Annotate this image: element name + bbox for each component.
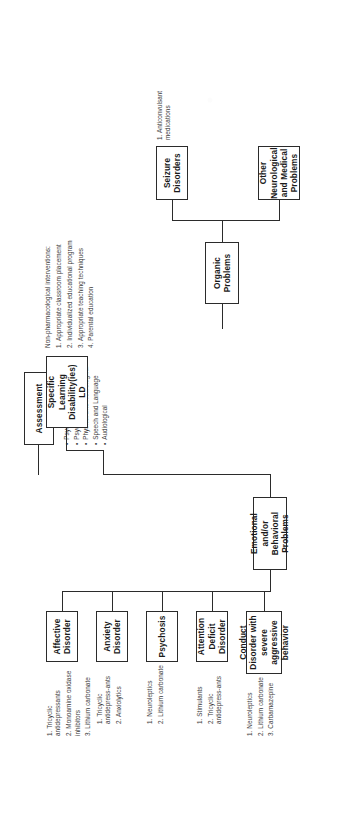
list-attention-deficit-disorder: 1. Stimulants 2. Tricyclic antidepress-a… <box>196 664 226 724</box>
list-item: 3. Lithium carbonate <box>84 664 92 736</box>
list-item: 2. Lithium carbonate <box>157 664 165 724</box>
node-affective-disorder-label: Affective Disorder <box>52 615 73 658</box>
node-psychosis[interactable]: Psychosis <box>146 611 178 662</box>
connector-other-neuro <box>279 199 280 221</box>
list-affective-disorder: 1. Tricyclic antidepressants 2. Monoamin… <box>46 664 95 736</box>
list-item: 3. Carbamazepine <box>267 676 275 736</box>
node-specific-learning-disability[interactable]: Specific Learning Disability(ies) LD <box>46 356 88 428</box>
node-assessment-label: Assessment <box>34 384 44 434</box>
node-organic-problems-box[interactable]: Organic Problems <box>205 242 239 304</box>
list-item: 4. Parental education <box>87 220 95 348</box>
list-item: 1. Neuroleptics <box>246 676 254 736</box>
connector-learning-stem <box>66 427 67 451</box>
list-learning-interventions: Non-pharmacological interventions: 1. Ap… <box>44 220 98 348</box>
assessment-bullet: Audiological <box>100 305 110 445</box>
connector-to-learning <box>103 450 104 475</box>
list-item: 2. Individualized educational program <box>66 220 74 348</box>
list-item: 2. Lithium carbonate <box>257 676 265 736</box>
list-item: 1. Tricyclic antidepress-ants <box>96 664 113 724</box>
list-conduct-disorder: 1. Neuroleptics 2. Lithium carbonate 3. … <box>246 676 278 736</box>
connector-organic-spine <box>172 220 280 221</box>
list-item: 1. Neuroleptics <box>146 664 154 724</box>
node-other-neurological-medical[interactable]: Other Neurological and Medical Problems <box>258 146 300 200</box>
connector-add <box>212 591 213 612</box>
connector-emotional-stem <box>270 569 271 592</box>
node-anxiety-disorder[interactable]: Anxiety Disorder <box>96 611 128 662</box>
list-anxiety-disorder: 1. Tricyclic antidepress-ants 2. Anxioly… <box>96 664 126 724</box>
node-emotional-behavioral[interactable]: Emotional and/or Behavioral Problems <box>253 497 287 570</box>
connector-organic-left <box>222 303 223 329</box>
connector-root-trunk <box>38 444 39 475</box>
list-item: 1. Appropriate classroom placement <box>55 220 63 348</box>
node-other-neurological-medical-label: Other Neurological and Medical Problems <box>258 147 299 198</box>
connector-seizure <box>172 199 173 221</box>
list-item: 1. Tricyclic antidepressants <box>46 664 63 736</box>
connector-affective <box>62 591 63 612</box>
list-psychosis: 1. Neuroleptics 2. Lithium carbonate <box>146 664 167 724</box>
connector-psychosis <box>162 591 163 612</box>
node-attention-deficit-disorder[interactable]: Attention Deficit Disorder <box>196 611 228 662</box>
list-item: 1. Anticonvulsant medications <box>156 78 173 140</box>
connector-emotional-spine <box>62 591 271 592</box>
list-item: 1. Stimulants <box>196 664 204 724</box>
connector-conduct <box>264 591 265 612</box>
flowchart-canvas: Assessment Psychiatric Psychoeducational… <box>0 0 362 834</box>
connector-anxiety <box>112 591 113 612</box>
list-item: 3. Appropriate teaching techniques <box>77 220 85 348</box>
node-organic-problems-label: Organic Problems <box>212 246 233 300</box>
node-seizure-disorders[interactable]: Seizure Disorders <box>156 146 188 200</box>
node-emotional-behavioral-label: Emotional and/or Behavioral Problems <box>249 501 290 566</box>
node-attention-deficit-disorder-label: Attention Deficit Disorder <box>196 615 227 658</box>
node-anxiety-disorder-label: Anxiety Disorder <box>102 615 123 658</box>
list-heading: Non-pharmacological interventions: <box>44 220 52 348</box>
node-conduct-disorder[interactable]: Conduct Disorder with severe aggressive … <box>246 611 282 674</box>
connector-main-spine <box>103 474 271 475</box>
list-seizure-disorders: 1. Anticonvulsant medications <box>156 78 175 140</box>
list-item: 2. Tricyclic antidepress-ants <box>207 664 224 724</box>
node-psychosis-label: Psychosis <box>157 616 167 658</box>
list-item: 2. Anxiolytics <box>115 664 123 724</box>
node-seizure-disorders-label: Seizure Disorders <box>162 150 183 196</box>
connector-to-emotional <box>270 474 271 498</box>
connector-organic-stem <box>222 220 223 242</box>
connector-learning-riser <box>66 450 104 451</box>
node-specific-learning-disability-label: Specific Learning Disability(ies) LD <box>46 360 87 424</box>
node-affective-disorder[interactable]: Affective Disorder <box>46 611 78 662</box>
node-conduct-disorder-label: Conduct Disorder with severe aggressive … <box>238 615 290 670</box>
list-item: 2. Monoamine oxidase inhibitors <box>65 664 82 736</box>
